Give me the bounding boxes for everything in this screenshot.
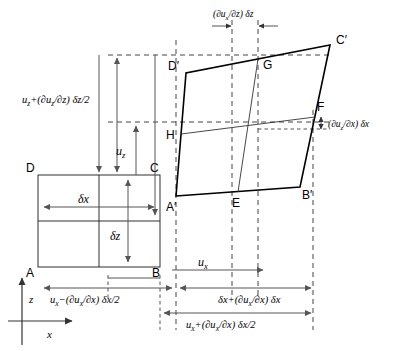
- dimension-ux-plus-half: ux+(∂ux/∂x) δx/2: [164, 313, 311, 333]
- original-element-square: [38, 175, 160, 267]
- diagram-root: D C A B δx δz A′ B′ C′ D′ E F G H: [0, 0, 404, 351]
- vertex-label-F: F: [317, 100, 324, 114]
- connector-c-to-cprime: [99, 55, 155, 215]
- vertex-label-D: D: [26, 161, 35, 175]
- vertex-label-B-prime: B′: [302, 188, 313, 202]
- z-axis-label: z: [28, 293, 34, 305]
- annotation-dux-dz: (∂ux/∂z) δz: [212, 9, 278, 26]
- vertex-label-A-prime: A′: [166, 200, 177, 214]
- delta-z-label: δz: [110, 229, 121, 243]
- ux-plus-half-label: ux+(∂ux/∂x) δx/2: [186, 319, 256, 333]
- ux-minus-half-label: ux−(∂ux/∂x) δx/2: [50, 294, 120, 308]
- uz-plus-half-label: uz+(∂uz/∂z) δz/2: [22, 94, 90, 108]
- vertex-label-A: A: [26, 266, 34, 280]
- dimension-deltax-plus: δx+(∂ux/∂x) δx: [180, 288, 311, 308]
- annotation-duz-dx: (∂uz/∂x) δx: [321, 117, 370, 132]
- inner-line-HF: [181, 117, 315, 134]
- parallelogram-outline: [176, 45, 330, 196]
- vertex-label-C-prime: C′: [336, 33, 348, 47]
- delta-x-label: δx: [78, 192, 90, 206]
- dimension-uz-plus-half: uz+(∂uz/∂z) δz/2: [22, 58, 117, 172]
- vertex-label-H: H: [166, 128, 175, 142]
- dimension-ux: ux: [172, 255, 263, 271]
- vertex-label-G: G: [263, 58, 272, 72]
- strain-deformation-diagram: D C A B δx δz A′ B′ C′ D′ E F G H: [0, 0, 404, 351]
- dux-dz-label: (∂ux/∂z) δz: [213, 9, 254, 22]
- dimension-uz: uz: [116, 126, 136, 175]
- uz-label: uz: [116, 144, 126, 160]
- deltax-plus-label: δx+(∂ux/∂x) δx: [218, 294, 281, 308]
- vertex-label-D-prime: D′: [168, 59, 180, 73]
- x-axis-label: x: [46, 328, 52, 340]
- deformed-element-parallelogram: [176, 45, 330, 196]
- vertex-label-E: E: [232, 196, 240, 210]
- ux-label: ux: [198, 255, 208, 271]
- duz-dx-label: (∂uz/∂x) δx: [328, 119, 370, 132]
